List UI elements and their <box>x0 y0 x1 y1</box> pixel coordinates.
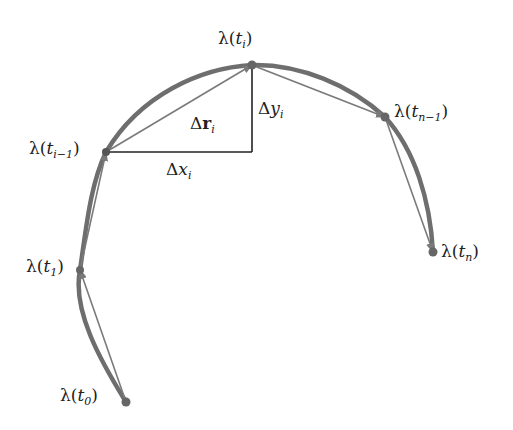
label-delta-x: Δxi <box>166 161 191 181</box>
label-lambda-ti-1: λ(ti−1) <box>29 140 80 160</box>
label-lambda-ti: λ(ti) <box>218 30 252 50</box>
label-lambda-tn: λ(tn) <box>441 243 479 263</box>
chord-tn-1-tn <box>385 117 433 252</box>
point-ti <box>248 61 257 70</box>
point-tn-1 <box>381 113 390 122</box>
label-delta-y: Δyi <box>258 100 283 120</box>
point-tn <box>429 248 438 257</box>
label-lambda-tn-1: λ(tn−1) <box>394 103 448 123</box>
chord-t1-ti-1 <box>80 152 106 270</box>
curve-figure <box>0 0 513 430</box>
point-ti-1 <box>102 148 110 156</box>
point-t1 <box>76 266 84 274</box>
chord-delta-r <box>106 65 252 152</box>
label-lambda-t0: λ(t0) <box>60 387 98 407</box>
label-lambda-t1: λ(t1) <box>26 258 64 278</box>
arc-length-diagram: λ(ti) λ(ti−1) λ(tn−1) λ(tn) λ(t1) λ(t0) … <box>0 0 513 430</box>
label-delta-r: Δri <box>190 115 215 135</box>
point-t0 <box>122 398 131 407</box>
chord-t0-t1 <box>80 270 126 402</box>
